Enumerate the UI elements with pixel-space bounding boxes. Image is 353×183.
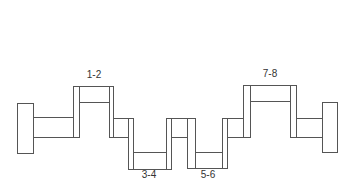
web-5 [188, 119, 196, 169]
web-2 [110, 87, 114, 138]
journal-4 [228, 119, 244, 138]
front-flange [18, 104, 34, 154]
web-1 [74, 87, 80, 138]
web-3 [129, 119, 134, 170]
crankpin-label-3-4: 3-4 [142, 170, 156, 180]
pin-7-8 [251, 86, 291, 102]
crankpin-label-7-8: 7-8 [263, 69, 277, 79]
web-6 [223, 119, 228, 169]
journal-2 [114, 119, 129, 138]
crankpin-label-5-6: 5-6 [201, 170, 215, 180]
pin-3-4 [134, 153, 167, 170]
crankshaft-drawing [0, 0, 353, 183]
web-8 [291, 86, 297, 138]
web-7 [244, 86, 251, 138]
journal-3 [172, 119, 188, 138]
rear-flange [323, 103, 338, 153]
crankpin-label-1-2: 1-2 [87, 70, 101, 80]
journal-5 [297, 119, 323, 138]
crankshaft-diagram: 1-2 3-4 5-6 7-8 [0, 0, 353, 183]
web-4 [167, 119, 172, 170]
journal-1 [34, 118, 74, 138]
pin-1-2 [80, 87, 110, 103]
pin-5-6 [196, 153, 223, 169]
